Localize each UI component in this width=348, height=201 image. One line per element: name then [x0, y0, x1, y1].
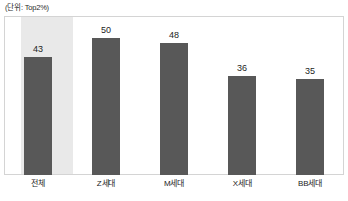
bar-item-x-generation[interactable]: 36 — [208, 16, 276, 175]
bar-value-label: 50 — [101, 25, 111, 36]
chart-container: (단위: Top2%) 43 50 48 36 35 전체 Z세대 M세대 X세 — [0, 0, 348, 201]
x-axis-label-z-generation: Z세대 — [72, 178, 140, 189]
bar-rect[interactable] — [228, 76, 256, 175]
bar-value-label: 36 — [237, 63, 247, 74]
x-axis-label-x-generation: X세대 — [208, 178, 276, 189]
bar-value-label: 48 — [169, 30, 179, 41]
bar-value-label: 43 — [33, 44, 43, 55]
bar-rect[interactable] — [160, 43, 188, 175]
bar-rect[interactable] — [24, 57, 52, 175]
unit-note-label: (단위: Top2%) — [5, 3, 49, 13]
bar-item-bb-generation[interactable]: 35 — [276, 16, 344, 175]
x-axis-label-bb-generation: BB세대 — [276, 178, 344, 189]
bar-rect[interactable] — [296, 79, 324, 175]
bar-rect[interactable] — [92, 38, 120, 175]
x-axis-label-m-generation: M세대 — [140, 178, 208, 189]
bar-item-m-generation[interactable]: 48 — [140, 16, 208, 175]
bar-series: 43 50 48 36 35 — [4, 16, 344, 175]
bar-item-jeonche[interactable]: 43 — [4, 16, 72, 175]
bar-value-label: 35 — [305, 66, 315, 77]
x-axis-label-jeonche: 전체 — [4, 178, 72, 189]
bar-item-z-generation[interactable]: 50 — [72, 16, 140, 175]
x-axis-labels: 전체 Z세대 M세대 X세대 BB세대 — [4, 178, 344, 189]
